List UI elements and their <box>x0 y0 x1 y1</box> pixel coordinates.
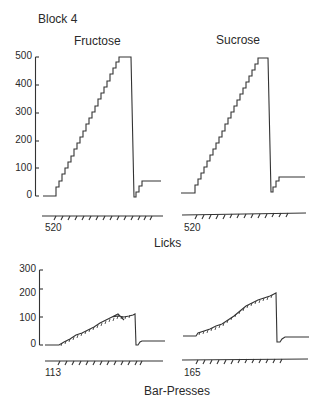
presses-event-line-sucrose <box>182 359 308 364</box>
presses-fructose-marks <box>61 315 130 346</box>
licks-sucrose-record <box>181 58 305 193</box>
cumulative-records <box>0 0 324 405</box>
licks-event-line-sucrose <box>182 213 306 219</box>
presses-y-axis <box>40 270 44 345</box>
licks-fructose-record <box>43 57 161 197</box>
presses-fructose-record <box>45 314 165 345</box>
licks-event-line-fructose <box>42 216 163 220</box>
presses-sucrose-record <box>183 293 309 342</box>
presses-event-line-fructose <box>45 361 163 365</box>
licks-y-axis <box>36 57 40 196</box>
